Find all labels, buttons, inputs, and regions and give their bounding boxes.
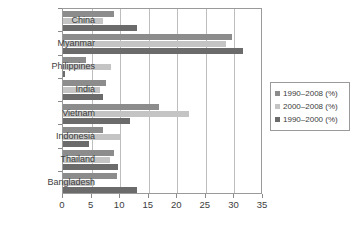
bar (63, 71, 65, 77)
legend-item-label: 1990–2008 (%) (283, 89, 338, 98)
legend-swatch-icon (275, 104, 280, 109)
x-axis-label: 10 (104, 199, 134, 210)
y-axis-label: Vietnam (0, 108, 95, 118)
bar (63, 187, 137, 193)
y-axis-label: Philippines (0, 61, 95, 71)
legend-item[interactable]: 1990–2008 (%) (275, 87, 346, 100)
y-axis-tick (58, 148, 62, 149)
bar (63, 94, 103, 100)
x-axis-label: 25 (190, 199, 220, 210)
y-axis-label: Thailand (0, 154, 95, 164)
x-axis-tick (176, 194, 177, 198)
x-axis-tick (91, 194, 92, 198)
bar (63, 25, 137, 31)
legend-item-label: 2000–2008 (%) (283, 102, 338, 111)
legend: 1990–2008 (%) 2000–2008 (%) 1990–2000 (%… (270, 82, 350, 131)
x-axis-label: 30 (218, 199, 248, 210)
y-axis-tick (58, 8, 62, 9)
y-axis-tick (58, 31, 62, 32)
x-axis-label: 5 (76, 199, 106, 210)
x-axis-tick (262, 194, 263, 198)
x-axis-label: 0 (47, 199, 77, 210)
bar-chart: ChinaMyanmarPhilippinesIndiaVietnamIndon… (0, 0, 361, 232)
y-axis-label: Myanmar (0, 38, 95, 48)
y-axis-tick (58, 78, 62, 79)
y-axis-tick (58, 124, 62, 125)
bar (63, 48, 243, 54)
bar (63, 164, 118, 170)
y-axis-tick (58, 171, 62, 172)
legend-swatch-icon (275, 117, 280, 122)
bar (63, 141, 89, 147)
x-axis-tick (119, 194, 120, 198)
x-axis-tick (233, 194, 234, 198)
x-axis-label: 15 (133, 199, 163, 210)
legend-swatch-icon (275, 91, 280, 96)
y-axis-tick (58, 55, 62, 56)
legend-item-label: 1990–2000 (%) (283, 115, 338, 124)
x-axis-label: 20 (161, 199, 191, 210)
x-axis-tick (62, 194, 63, 198)
plot-area (62, 8, 262, 194)
y-axis-tick (58, 101, 62, 102)
legend-item[interactable]: 2000–2008 (%) (275, 100, 346, 113)
x-axis-label: 35 (247, 199, 277, 210)
y-axis-label: China (0, 15, 95, 25)
y-axis-label: Indonesia (0, 131, 95, 141)
legend-item[interactable]: 1990–2000 (%) (275, 113, 346, 126)
x-axis-tick (148, 194, 149, 198)
y-axis-label: India (0, 84, 95, 94)
bar (63, 118, 130, 124)
x-axis-tick (205, 194, 206, 198)
y-axis-label: Bangladesh (0, 177, 95, 187)
